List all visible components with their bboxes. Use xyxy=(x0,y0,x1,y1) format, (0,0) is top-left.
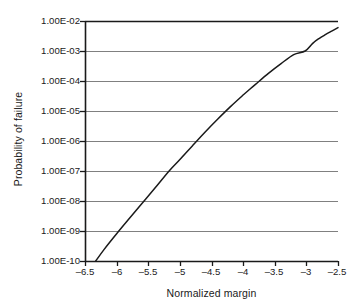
x-axis-title: Normalized margin xyxy=(85,287,338,299)
y-tick-label: 1.00E-09 xyxy=(24,226,80,236)
y-tick-wrap: 1.00E-07 xyxy=(22,166,80,176)
y-tick-label: 1.00E-06 xyxy=(24,136,80,146)
y-tick-label: 1.00E-04 xyxy=(24,76,80,86)
y-tick-wrap: 1.00E-10 xyxy=(22,256,80,266)
chart-figure: Probability of failure Normalized margin… xyxy=(0,0,358,308)
y-tick-wrap: 1.00E-05 xyxy=(22,106,80,116)
y-tick-label: 1.00E-08 xyxy=(24,196,80,206)
y-tick-label: 1.00E-07 xyxy=(24,166,80,176)
y-tick-label: 1.00E-02 xyxy=(24,16,80,26)
y-tick-wrap: 1.00E-02 xyxy=(22,16,80,26)
y-tick-label: 1.00E-03 xyxy=(24,46,80,56)
y-tick-label: 1.00E-10 xyxy=(24,256,80,266)
y-tick-wrap: 1.00E-04 xyxy=(22,76,80,86)
y-tick-wrap: 1.00E-09 xyxy=(22,226,80,236)
y-tick-label: 1.00E-05 xyxy=(24,106,80,116)
y-tick-wrap: 1.00E-08 xyxy=(22,196,80,206)
y-tick-wrap: 1.00E-03 xyxy=(22,46,80,56)
y-tick-wrap: 1.00E-06 xyxy=(22,136,80,146)
x-tick-label: –2.5 xyxy=(317,266,357,277)
y-tick-marks xyxy=(80,22,85,262)
data-curve xyxy=(96,28,338,261)
